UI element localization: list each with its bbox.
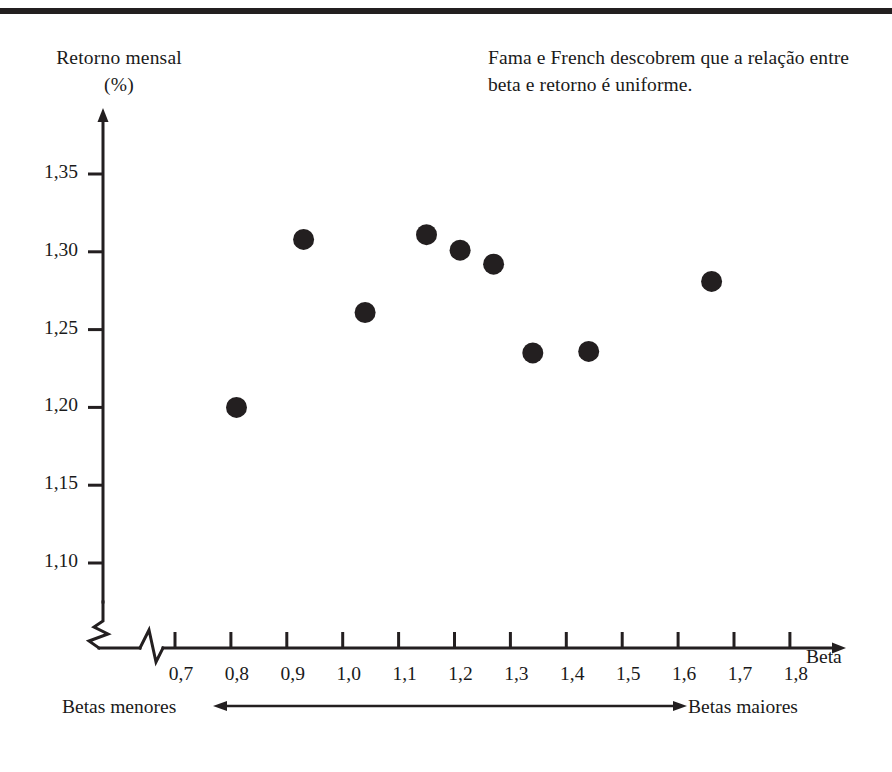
y-tick-label: 1,15: [0, 473, 78, 493]
y-tick-label: 1,25: [0, 318, 78, 338]
x-axis-break: [140, 630, 163, 662]
data-point: [226, 397, 247, 418]
data-point: [522, 342, 543, 363]
y-tick-label: 1,35: [0, 162, 78, 182]
y-tick-label: 1,10: [0, 551, 78, 571]
y-tick-label: 1,30: [0, 240, 78, 260]
x-tick-label: 1,6: [656, 664, 712, 684]
x-tick-label: 1,0: [321, 664, 377, 684]
data-point: [293, 229, 314, 250]
x-tick-label: 0,8: [209, 664, 265, 684]
data-point: [578, 341, 599, 362]
data-point: [450, 240, 471, 261]
x-axis-arrowhead: [832, 643, 846, 654]
x-tick-label: 1,8: [768, 664, 824, 684]
x-tick-label: 0,9: [265, 664, 321, 684]
y-axis-arrowhead: [98, 108, 109, 122]
x-tick-label: 1,3: [488, 664, 544, 684]
x-tick-label: 1,2: [433, 664, 489, 684]
y-tick-label: 1,20: [0, 395, 78, 415]
y-axis-break: [89, 602, 108, 648]
axes: [89, 108, 846, 662]
scatter-plot: [0, 0, 892, 772]
footer-arrow-head-left: [213, 701, 227, 711]
x-tick-label: 1,4: [544, 664, 600, 684]
data-point-markers: [226, 224, 722, 418]
x-tick-label: 0,7: [153, 664, 209, 684]
data-point: [355, 302, 376, 323]
x-tick-label: 1,5: [600, 664, 656, 684]
tick-marks: [88, 174, 790, 648]
data-point: [483, 254, 504, 275]
footer-arrow-head-right: [673, 701, 687, 711]
footer-double-arrow: [213, 701, 687, 711]
data-point: [701, 271, 722, 292]
x-tick-label: 1,7: [712, 664, 768, 684]
x-tick-label: 1,1: [377, 664, 433, 684]
data-point: [416, 224, 437, 245]
